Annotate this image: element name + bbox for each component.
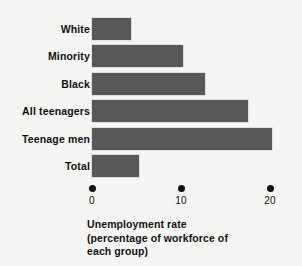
bar-category-label: White bbox=[0, 18, 90, 40]
bar-row: Black bbox=[0, 73, 302, 95]
bar bbox=[92, 155, 139, 177]
caption-line-1: Unemployment rate bbox=[87, 218, 302, 232]
bar-row: All teenagers bbox=[0, 100, 302, 122]
bar-track bbox=[92, 45, 183, 67]
bar-row: Teenage men bbox=[0, 128, 302, 150]
unemployment-rate-bar-chart: WhiteMinorityBlackAll teenagersTeenage m… bbox=[0, 0, 302, 266]
bar bbox=[92, 128, 272, 150]
bar bbox=[92, 100, 248, 122]
bar-row: Minority bbox=[0, 45, 302, 67]
axis-caption: Unemployment rate (percentage of workfor… bbox=[87, 218, 302, 259]
bar-track bbox=[92, 18, 131, 40]
caption-line-2: (percentage of workforce of bbox=[87, 232, 302, 246]
bar-category-label: Total bbox=[0, 155, 90, 177]
bar-category-label: All teenagers bbox=[0, 100, 90, 122]
bar-row: Total bbox=[0, 155, 302, 177]
bar bbox=[92, 73, 205, 95]
bar-category-label: Black bbox=[0, 73, 90, 95]
caption-line-3: each group) bbox=[87, 245, 302, 259]
x-axis: 01020 bbox=[0, 185, 302, 217]
bar-track bbox=[92, 128, 272, 150]
bar-category-label: Teenage men bbox=[0, 128, 90, 150]
bar bbox=[92, 18, 131, 40]
tick-dot-icon bbox=[178, 185, 185, 192]
bar-track bbox=[92, 155, 139, 177]
bar-category-label: Minority bbox=[0, 45, 90, 67]
bar bbox=[92, 45, 183, 67]
bar-track bbox=[92, 73, 205, 95]
plot-area: WhiteMinorityBlackAll teenagersTeenage m… bbox=[0, 0, 302, 185]
tick-dot-icon bbox=[267, 185, 274, 192]
x-axis-tick-label: 10 bbox=[163, 195, 199, 206]
x-axis-tick-label: 20 bbox=[252, 195, 288, 206]
bar-row: White bbox=[0, 18, 302, 40]
tick-dot-icon bbox=[89, 185, 96, 192]
x-axis-tick-label: 0 bbox=[74, 195, 110, 206]
bar-track bbox=[92, 100, 248, 122]
